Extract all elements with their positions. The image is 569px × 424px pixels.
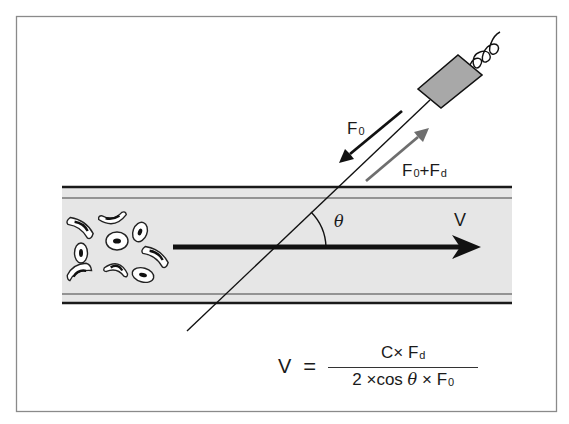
den-theta: θ [408,370,418,389]
den-f: F [437,370,447,389]
formula-denominator: 2 ×cos θ × F0 [352,368,454,390]
f0fd-main1: F [402,161,412,180]
den-times2: × [422,370,432,389]
f0fd-main2: F [429,161,439,180]
den-cos: cos [376,370,402,389]
formula-equals: = [303,354,316,380]
velocity-label: V [454,211,466,229]
f0-main: F [347,119,357,138]
doppler-formula: V = C× Fd 2 ×cos θ × F0 [278,344,478,389]
den-times1: × [366,370,376,389]
angle-theta-label: θ [334,214,344,230]
den-two: 2 [352,370,361,389]
den-sub: 0 [448,376,454,388]
f0fd-sub1: 0 [413,167,419,179]
formula-fraction: C× Fd 2 ×cos θ × F0 [328,344,478,389]
transmitted-frequency-label: F0 [347,120,365,137]
f0fd-plus: + [420,161,430,180]
num-f: F [408,343,418,362]
blood-cell [75,243,88,263]
num-times: × [393,343,403,362]
formula-numerator: C× Fd [381,344,425,367]
f0fd-sub2: d [441,167,447,179]
received-frequency-label: F0+Fd [402,162,447,179]
num-c: C [381,343,393,362]
num-sub: d [419,349,425,361]
f0-sub: 0 [358,125,364,137]
formula-lhs: V [278,355,291,378]
blood-cell [106,232,128,250]
